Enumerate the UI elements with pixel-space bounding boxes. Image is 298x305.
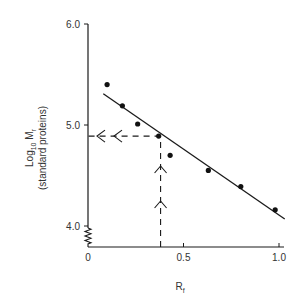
fit-line (103, 94, 284, 219)
axis-ticks: 4.05.06.000.51.0 (66, 19, 286, 263)
regression-line (103, 94, 284, 219)
data-point (206, 168, 211, 173)
y-axis-label: Log10 Mr (standard proteins) (24, 106, 48, 190)
x-tick-label: 0.5 (177, 252, 191, 263)
svg-text:Log10 Mr: Log10 Mr (24, 128, 37, 167)
svg-text:(standard proteins): (standard proteins) (37, 106, 48, 190)
data-point (105, 82, 110, 87)
data-point (156, 134, 161, 139)
chart: 4.05.06.000.51.0 Rf Log10 Mr (standard p… (0, 0, 298, 305)
reading-guides (88, 130, 167, 247)
data-point (168, 153, 173, 158)
y-tick-label: 6.0 (66, 19, 80, 30)
data-point (238, 184, 243, 189)
x-tick-label: 1.0 (272, 252, 286, 263)
y-axis-break (85, 228, 91, 247)
x-axis-label: Rf (175, 281, 184, 294)
data-point (120, 103, 125, 108)
y-tick-label: 4.0 (66, 221, 80, 232)
data-points (105, 82, 278, 212)
data-point (273, 207, 278, 212)
x-tick-label: 0 (85, 252, 91, 263)
data-point (135, 121, 140, 126)
y-tick-label: 5.0 (66, 120, 80, 131)
